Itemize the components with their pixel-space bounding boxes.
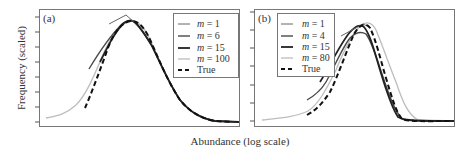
panel-b: (b) m = 1 m = 4 m = 15 m = 80 True (250, 10, 455, 127)
panel-a-legend: m = 1 m = 6 m = 15 m = 100 True (174, 14, 239, 78)
x-axis-label: Abundance (log scale) (191, 135, 290, 148)
figure: Frequency (scaled) Abundance (log scale)… (0, 0, 472, 151)
legend-a-item-true: True (197, 64, 216, 75)
y-axis-label: Frequency (scaled) (15, 26, 28, 110)
panel-a-y-ticks (35, 17, 40, 122)
panel-b-legend: m = 1 m = 4 m = 15 m = 80 True (278, 14, 335, 77)
legend-b-item-m4: m = 4 (302, 30, 325, 41)
legend-a-item-m15: m = 15 (197, 42, 225, 53)
legend-a-item-m1: m = 1 (197, 18, 220, 29)
legend-a-item-m6: m = 6 (197, 30, 220, 41)
legend-b-item-m15: m = 15 (302, 41, 330, 52)
panel-a-label: (a) (43, 12, 56, 25)
panel-b-series-m15 (320, 26, 454, 121)
legend-b-item-m1: m = 1 (302, 18, 325, 29)
panel-a-series-m1 (109, 15, 134, 24)
panel-a: (a) m = 1 m = 6 m = 15 m = 100 True (35, 10, 240, 127)
legend-b-item-true: True (302, 63, 321, 74)
panel-b-label: (b) (258, 12, 271, 25)
legend-b-item-m80: m = 80 (302, 52, 330, 63)
panel-b-y-ticks (250, 12, 255, 121)
legend-a-item-m100: m = 100 (197, 53, 230, 64)
